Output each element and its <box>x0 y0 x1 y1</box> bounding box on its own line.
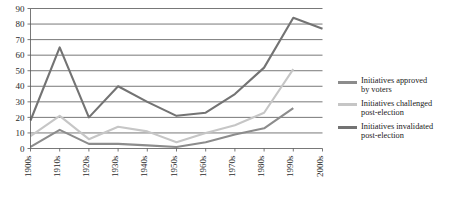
legend-item[interactable]: Initiatives approved by voters <box>338 76 454 95</box>
caption-text <box>0 200 454 208</box>
x-tick-label: 1940s <box>139 155 149 177</box>
y-tick-label: 10 <box>16 128 26 138</box>
y-tick-label: 60 <box>16 50 26 60</box>
data-series-lines <box>31 18 323 147</box>
y-tick-label: 80 <box>16 19 26 29</box>
x-tick-label: 1950s <box>169 155 179 177</box>
legend-item[interactable]: Initiatives invalidated post-election <box>338 122 454 141</box>
chart-legend: Initiatives approved by votersInitiative… <box>338 76 454 144</box>
chart-figure: 0102030405060708090 1900s1910s1920s1930s… <box>0 0 454 208</box>
legend-label: Initiatives challenged post-election <box>361 99 432 118</box>
x-tick-label: 2000s <box>315 155 325 177</box>
x-tick-label: 1970s <box>227 155 237 177</box>
x-tick-label: 1930s <box>110 155 120 177</box>
legend-label: Initiatives approved by voters <box>361 76 427 95</box>
x-tick-label: 1960s <box>198 155 208 177</box>
x-tick-label: 1910s <box>52 155 62 177</box>
x-tick-label: 1980s <box>256 155 266 177</box>
series-line-2 <box>31 18 323 121</box>
y-tick-label: 0 <box>20 144 25 154</box>
y-tick-label: 90 <box>16 4 26 14</box>
series-line-0 <box>31 108 294 147</box>
legend-color-swatch <box>338 81 357 84</box>
legend-color-swatch <box>338 126 357 129</box>
y-tick-label: 40 <box>16 81 26 91</box>
y-tick-label: 50 <box>16 66 26 76</box>
y-tick-label: 20 <box>16 113 26 123</box>
legend-color-swatch <box>338 103 357 106</box>
x-tick-label: 1900s <box>23 155 33 177</box>
y-tick-label: 30 <box>16 97 26 107</box>
legend-label: Initiatives invalidated post-election <box>361 122 433 141</box>
x-axis-tick-labels: 1900s1910s1920s1930s1940s1950s1960s1970s… <box>23 155 325 177</box>
y-axis-tick-labels: 0102030405060708090 <box>16 4 26 154</box>
y-tick-label: 70 <box>16 35 26 45</box>
x-tick-label: 1990s <box>285 155 295 177</box>
x-tick-label: 1920s <box>81 155 91 177</box>
x-axis-tickmarks <box>31 149 323 152</box>
legend-item[interactable]: Initiatives challenged post-election <box>338 99 454 118</box>
